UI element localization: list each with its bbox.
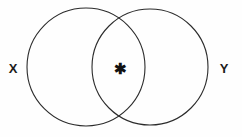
set-circle-y [92,9,208,125]
venn-diagram-figure: X Y ✱ [0,0,242,137]
set-label-x: X [9,61,18,76]
asterisk-star-icon: ✱ [114,60,127,77]
venn-diagram-canvas: X Y ✱ [0,0,242,137]
set-label-y: Y [220,61,229,76]
